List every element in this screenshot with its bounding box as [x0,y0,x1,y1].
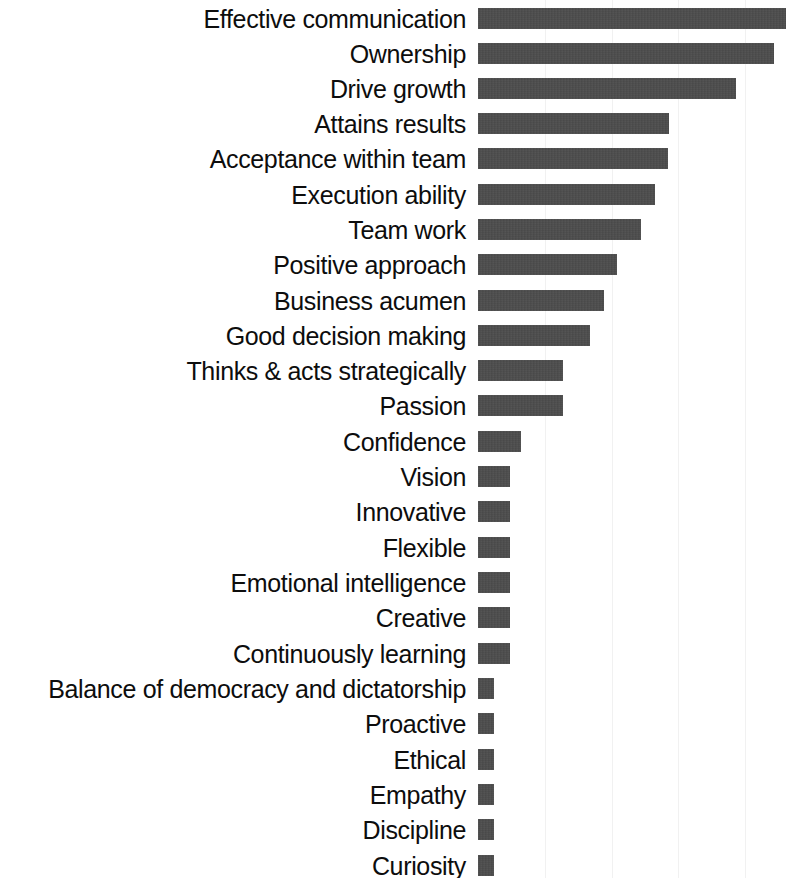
bar [478,643,510,664]
bar [478,290,604,311]
bar-category-label: Continuously learning [233,641,466,666]
chart-row: Confidence [0,431,812,452]
bar [478,501,510,522]
bar [478,113,669,134]
chart-row: Business acumen [0,290,812,311]
bar-category-label: Effective communication [204,6,466,31]
chart-row: Flexible [0,537,812,558]
bar-category-label: Flexible [383,535,466,560]
bar [478,678,494,699]
bar-category-label: Team work [348,217,466,242]
chart-row: Proactive [0,713,812,734]
bar [478,184,655,205]
bar-category-label: Acceptance within team [210,146,466,171]
chart-row: Innovative [0,501,812,522]
bar [478,466,510,487]
bar-category-label: Drive growth [330,76,466,101]
bar-category-label: Good decision making [226,323,466,348]
bar-category-label: Vision [400,464,466,489]
bar [478,325,590,346]
chart-row: Balance of democracy and dictatorship [0,678,812,699]
chart-row: Execution ability [0,184,812,205]
chart-row: Team work [0,219,812,240]
bar [478,749,494,770]
bar [478,784,494,805]
chart-row: Curiosity [0,855,812,876]
bar-category-label: Attains results [314,111,466,136]
bar [478,607,510,628]
horizontal-bar-chart: Effective communicationOwnershipDrive gr… [0,0,812,878]
bar-category-label: Creative [376,605,466,630]
bar [478,395,563,416]
chart-row: Creative [0,607,812,628]
chart-row: Ethical [0,749,812,770]
bar-category-label: Business acumen [274,288,466,313]
bar-category-label: Positive approach [273,252,466,277]
bar-category-label: Ethical [393,747,466,772]
bar [478,819,494,840]
bar-category-label: Ownership [350,41,466,66]
bar [478,855,494,876]
bar-category-label: Balance of democracy and dictatorship [48,676,466,701]
bar [478,219,641,240]
bar-category-label: Innovative [356,499,466,524]
bar-category-label: Emotional intelligence [230,570,466,595]
chart-row: Good decision making [0,325,812,346]
bar-category-label: Empathy [370,782,466,807]
bar [478,713,494,734]
chart-row: Passion [0,395,812,416]
chart-row: Continuously learning [0,643,812,664]
bar-category-label: Proactive [365,711,466,736]
chart-row: Attains results [0,113,812,134]
bar [478,8,786,29]
bar-category-label: Confidence [343,429,466,454]
bar-category-label: Execution ability [291,182,466,207]
chart-row: Vision [0,466,812,487]
chart-row: Positive approach [0,254,812,275]
chart-row: Drive growth [0,78,812,99]
chart-row: Ownership [0,43,812,64]
chart-plot-area: Effective communicationOwnershipDrive gr… [0,0,812,878]
chart-row: Empathy [0,784,812,805]
bar-category-label: Discipline [363,817,466,842]
bar [478,431,521,452]
chart-row: Discipline [0,819,812,840]
bar [478,254,617,275]
bar [478,572,510,593]
chart-row: Emotional intelligence [0,572,812,593]
bar [478,148,668,169]
bar [478,537,510,558]
chart-row: Effective communication [0,8,812,29]
bar-category-label: Passion [380,393,467,418]
bar-category-label: Thinks & acts strategically [186,358,466,383]
chart-row: Acceptance within team [0,148,812,169]
bar [478,78,736,99]
chart-row: Thinks & acts strategically [0,360,812,381]
bar [478,360,563,381]
bar [478,43,774,64]
bar-category-label: Curiosity [372,853,466,878]
